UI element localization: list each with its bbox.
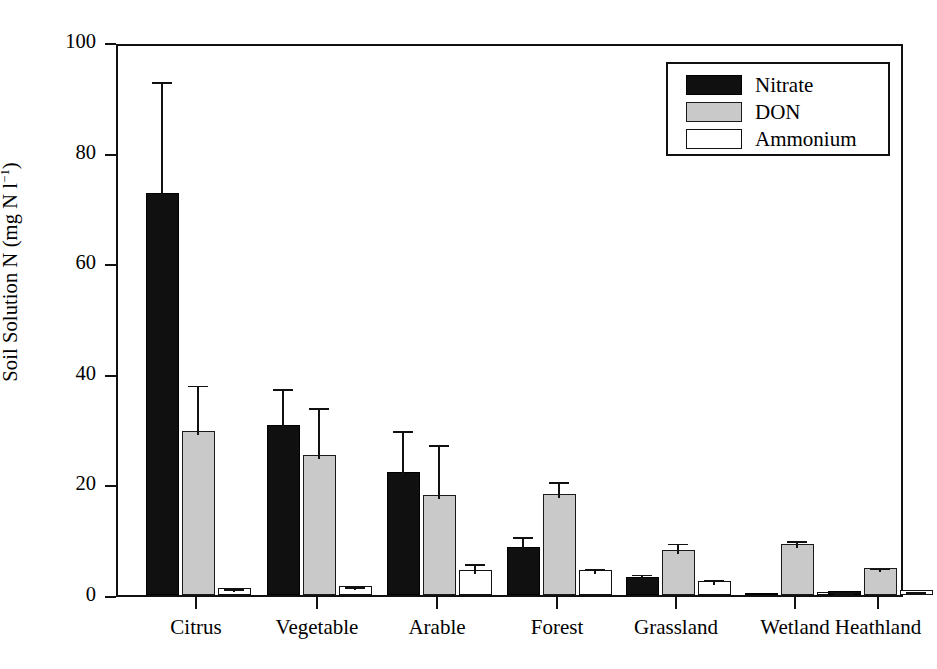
error-bar-cap bbox=[429, 445, 449, 447]
error-bar-cap bbox=[273, 389, 293, 391]
y-axis-tick-mark bbox=[105, 375, 116, 377]
error-bar-citrus-nitrate bbox=[161, 82, 163, 197]
y-axis-tick-label: 40 bbox=[76, 362, 97, 385]
x-axis-tick-mark bbox=[877, 597, 879, 609]
error-bar-cap bbox=[906, 592, 926, 594]
bar-citrus-nitrate bbox=[146, 193, 179, 595]
legend-item-don[interactable]: DON bbox=[686, 100, 801, 124]
legend-item-label: Nitrate bbox=[755, 75, 813, 96]
bar-citrus-don bbox=[182, 431, 215, 595]
legend-swatch-don-icon bbox=[686, 102, 742, 122]
error-bar-cap bbox=[345, 587, 365, 589]
bar-vegetable-don bbox=[303, 455, 336, 595]
bar-vegetable-nitrate bbox=[267, 425, 300, 595]
error-bar-citrus-don bbox=[197, 386, 199, 436]
legend-swatch-ammonium-icon bbox=[686, 129, 742, 149]
x-axis-tick-mark bbox=[436, 597, 438, 609]
bar-heathland-don bbox=[864, 568, 897, 595]
bar-arable-don bbox=[423, 495, 456, 595]
legend-item-ammonium[interactable]: Ammonium bbox=[686, 127, 857, 151]
x-axis-tick-mark bbox=[675, 597, 677, 609]
x-axis-tick-mark bbox=[195, 597, 197, 609]
error-bar-cap bbox=[224, 589, 244, 591]
y-axis-title-suffix: ) bbox=[0, 162, 21, 169]
error-bar-cap bbox=[787, 541, 807, 543]
bar-forest-nitrate bbox=[507, 547, 540, 595]
bar-forest-don bbox=[543, 494, 576, 595]
y-axis-title: Soil Solution N (mg N l−1) bbox=[0, 0, 22, 582]
y-axis-title-text: Soil Solution N (mg N l bbox=[0, 183, 21, 382]
x-axis-tick-label: Heathland bbox=[778, 615, 937, 640]
error-bar-cap bbox=[309, 408, 329, 410]
error-bar-cap bbox=[585, 569, 605, 571]
bar-chart-figure: Soil Solution N (mg N l−1) 100806040200 … bbox=[0, 0, 937, 669]
error-bar-cap bbox=[465, 564, 485, 566]
y-axis-tick-label: 0 bbox=[86, 583, 96, 606]
error-bar-cap bbox=[668, 544, 688, 546]
bar-arable-nitrate bbox=[387, 472, 420, 595]
legend-item-label: Ammonium bbox=[755, 129, 857, 150]
x-axis-tick-mark bbox=[316, 597, 318, 609]
error-bar-cap bbox=[513, 537, 533, 539]
error-bar-cap bbox=[152, 82, 172, 84]
error-bar-cap bbox=[704, 580, 724, 582]
error-bar-arable-don bbox=[438, 445, 440, 500]
bar-wetland-don bbox=[781, 544, 814, 595]
y-axis-tick-mark bbox=[105, 154, 116, 156]
error-bar-cap bbox=[632, 575, 652, 577]
y-axis-tick-label: 100 bbox=[65, 30, 96, 53]
y-axis-tick-mark bbox=[105, 596, 116, 598]
legend-item-nitrate[interactable]: Nitrate bbox=[686, 73, 813, 97]
legend-swatch-nitrate-icon bbox=[686, 75, 742, 95]
error-bar-cap bbox=[393, 431, 413, 433]
error-bar-cap bbox=[834, 593, 854, 595]
error-bar-vegetable-don bbox=[318, 408, 320, 459]
error-bar-cap bbox=[188, 386, 208, 388]
error-bar-cap bbox=[751, 595, 771, 597]
x-axis-tick-mark bbox=[556, 597, 558, 609]
y-axis-tick-mark bbox=[105, 43, 116, 45]
error-bar-forest-nitrate bbox=[522, 537, 524, 551]
y-axis-tick-mark bbox=[105, 485, 116, 487]
error-bar-vegetable-nitrate bbox=[282, 389, 284, 428]
chart-legend: NitrateDONAmmonium bbox=[666, 62, 890, 156]
y-axis-tick-label: 20 bbox=[76, 472, 97, 495]
legend-item-label: DON bbox=[755, 102, 801, 123]
bar-grassland-don bbox=[662, 550, 695, 595]
error-bar-cap bbox=[870, 569, 890, 571]
y-axis-tick-label: 80 bbox=[76, 141, 97, 164]
error-bar-cap bbox=[549, 482, 569, 484]
y-axis-tick-label: 60 bbox=[76, 251, 97, 274]
error-bar-forest-don bbox=[558, 482, 560, 497]
error-bar-arable-nitrate bbox=[402, 431, 404, 476]
x-axis-tick-mark bbox=[794, 597, 796, 609]
y-axis-title-exponent: −1 bbox=[0, 169, 12, 183]
y-axis-tick-mark bbox=[105, 264, 116, 266]
